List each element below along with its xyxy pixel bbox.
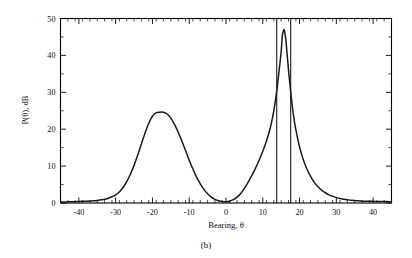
figure-container: -40-30-20-10010203040 01020304050 Bearin… xyxy=(0,0,412,258)
y-axis-major-ticks xyxy=(61,19,392,204)
y-axis-tick-labels: 01020304050 xyxy=(47,15,55,209)
x-tick-label-4: 0 xyxy=(224,208,228,217)
annotation-vertical-lines xyxy=(277,19,291,204)
x-tick-label-0: -40 xyxy=(73,208,84,217)
x-tick-label-7: 30 xyxy=(332,208,340,217)
plot-frame xyxy=(61,19,392,204)
x-axis-title: Bearing, θ xyxy=(208,220,244,230)
x-tick-label-1: -30 xyxy=(110,208,121,217)
x-tick-label-5: 10 xyxy=(259,208,267,217)
chart-canvas: -40-30-20-10010203040 01020304050 Bearin… xyxy=(0,0,412,258)
y-tick-label-3: 30 xyxy=(47,88,55,97)
x-tick-label-2: -20 xyxy=(147,208,158,217)
y-tick-label-4: 40 xyxy=(47,51,55,60)
x-axis-minor-ticks xyxy=(61,19,392,204)
y-tick-label-1: 10 xyxy=(47,162,55,171)
y-axis-title: P(θ), dB xyxy=(20,95,30,124)
x-tick-label-8: 40 xyxy=(369,208,377,217)
x-tick-label-6: 20 xyxy=(295,208,303,217)
y-tick-label-2: 20 xyxy=(47,125,55,134)
y-axis-minor-ticks xyxy=(61,37,392,185)
spatial-spectrum-curve xyxy=(61,30,392,203)
figure-caption: (b) xyxy=(201,240,212,250)
y-tick-label-5: 50 xyxy=(47,15,55,24)
x-axis-tick-labels: -40-30-20-10010203040 xyxy=(73,208,377,217)
y-tick-label-0: 0 xyxy=(51,199,55,208)
x-axis-major-ticks xyxy=(79,19,373,204)
x-tick-label-3: -10 xyxy=(184,208,195,217)
